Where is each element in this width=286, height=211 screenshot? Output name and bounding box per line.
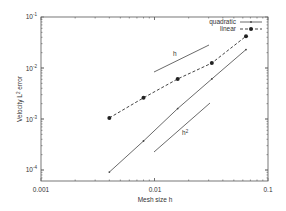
reference-label-h: h	[173, 50, 177, 57]
series-quadratic	[108, 49, 246, 173]
convergence-chart: 10-1 10-2 10-3 10-4 0.001 0.01 0.1 Mesh …	[0, 0, 286, 211]
data-point-quadratic	[211, 78, 213, 80]
data-point-linear	[142, 96, 146, 100]
x-tick-labels: 0.001 0.01 0.1	[33, 186, 273, 193]
y-axis-label: Velocity L2 error	[16, 75, 25, 122]
data-point-quadratic	[245, 49, 247, 51]
y-tick-3: 10-3	[26, 115, 38, 123]
y-tick-labels: 10-1 10-2 10-3 10-4	[26, 12, 38, 173]
legend-marker-quadratic	[250, 21, 252, 23]
data-point-linear	[210, 61, 214, 65]
legend-label-linear: linear	[220, 25, 237, 32]
reference-label-h2: h2	[182, 129, 189, 137]
data-point-linear	[176, 77, 180, 81]
x-tick-0001: 0.001	[33, 186, 50, 193]
x-axis-label: Mesh size h	[138, 196, 173, 203]
x-tick-001: 0.01	[149, 186, 162, 193]
data-point-linear	[107, 116, 111, 120]
data-point-quadratic	[143, 140, 145, 142]
legend-marker-linear	[249, 27, 253, 31]
minor-ticks	[41, 17, 268, 181]
y-tick-4: 10-4	[26, 165, 38, 173]
y-tick-2: 10-2	[26, 64, 38, 72]
y-tick-1: 10-1	[26, 12, 38, 20]
series-line-quadratic	[109, 50, 246, 173]
plot-frame	[41, 17, 268, 181]
reference-line-h2	[154, 103, 210, 152]
legend: quadratic linear	[209, 18, 262, 32]
x-tick-01: 0.1	[263, 186, 272, 193]
data-point-quadratic	[177, 108, 179, 110]
data-point-quadratic	[108, 171, 110, 173]
data-point-linear	[244, 34, 248, 38]
reference-line-h	[154, 45, 209, 72]
series-linear	[107, 34, 248, 120]
